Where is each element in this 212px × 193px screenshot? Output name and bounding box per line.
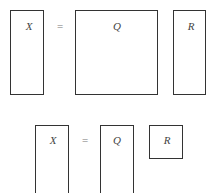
label-x-full: X (26, 20, 33, 32)
label-q-full: Q (113, 20, 121, 32)
label-q-reduced: Q (113, 134, 121, 146)
equals-sign-reduced: = (82, 134, 88, 146)
label-r-reduced: R (164, 134, 171, 146)
label-r-full: R (188, 20, 195, 32)
label-x-reduced: X (50, 134, 57, 146)
equals-sign-full: = (57, 20, 63, 32)
